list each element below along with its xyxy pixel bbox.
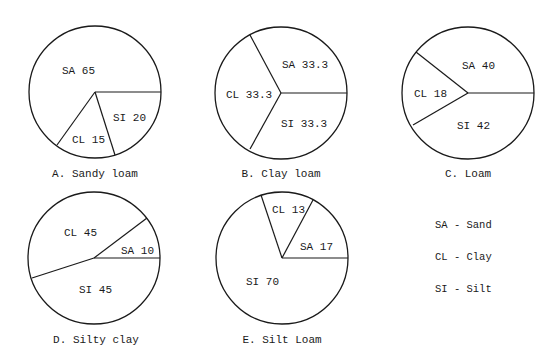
pie-d-label-clay: CL 45 <box>64 227 97 239</box>
soil-texture-pie-figure: SA 65 SI 20 CL 15 A. Sandy loam SA 33.3 … <box>0 0 555 363</box>
pie-a-label-sand: SA 65 <box>62 65 95 77</box>
pie-e-label-sand: SA 17 <box>300 241 333 253</box>
legend-item-clay: CL - Clay <box>435 251 492 263</box>
pie-c-label-silt: SI 42 <box>457 120 490 132</box>
legend-item-sand: SA - Sand <box>435 219 492 231</box>
pie-c-label-clay: CL 18 <box>414 88 447 100</box>
pie-b-label-clay: CL 33.3 <box>226 89 272 101</box>
pie-c-label-sand: SA 40 <box>462 60 495 72</box>
pie-a-label-clay: CL 15 <box>72 134 105 146</box>
pie-e-label-silt: SI 70 <box>246 276 279 288</box>
pie-chart-sandy-loam: SA 65 SI 20 CL 15 A. Sandy loam <box>29 26 161 180</box>
pie-chart-silt-loam: CL 13 SA 17 SI 70 E. Silt Loam <box>216 192 348 346</box>
pie-d-caption: D. Silty clay <box>53 334 139 346</box>
pie-c-caption: C. Loam <box>445 168 492 180</box>
pie-chart-silty-clay: CL 45 SA 10 SI 45 D. Silty clay <box>28 192 160 346</box>
pie-a-label-silt: SI 20 <box>113 112 146 124</box>
pie-chart-clay-loam: SA 33.3 CL 33.3 SI 33.3 B. Clay loam <box>215 27 347 180</box>
legend-item-silt: SI - Silt <box>435 283 492 295</box>
pie-d-label-sand: SA 10 <box>121 245 154 257</box>
legend: SA - Sand CL - Clay SI - Silt <box>435 219 492 295</box>
pie-b-caption: B. Clay loam <box>241 168 321 180</box>
pie-chart-loam: SA 40 CL 18 SI 42 C. Loam <box>402 27 534 180</box>
pie-e-caption: E. Silt Loam <box>242 334 322 346</box>
pie-d-label-silt: SI 45 <box>79 284 112 296</box>
pie-a-caption: A. Sandy loam <box>52 168 138 180</box>
pie-e-label-clay: CL 13 <box>272 204 305 216</box>
pie-b-label-sand: SA 33.3 <box>282 59 328 71</box>
pie-b-label-silt: SI 33.3 <box>281 118 327 130</box>
